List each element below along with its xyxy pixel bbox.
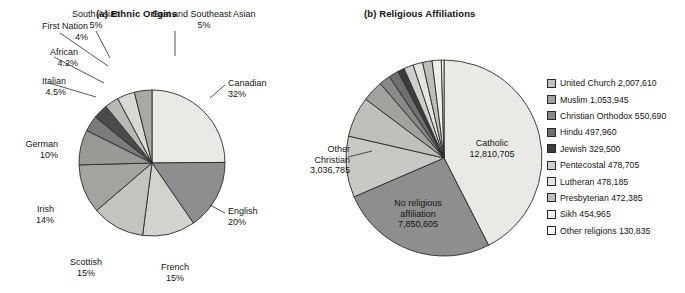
legend-item-christian: Christian Orthodox 550,690	[547, 108, 685, 124]
legend-item-label: Jewish 329,500	[560, 144, 620, 154]
legend-item-sikh: Sikh 454,965	[547, 206, 685, 222]
chart-b-legend: United Church 2,007,610Muslim 1,053,945C…	[547, 75, 685, 239]
chart-b-label-no-religious-affiliation: No religious affiliation 7,850,605	[370, 198, 466, 230]
legend-item-label: Muslim 1,053,945	[560, 95, 629, 105]
legend-item-other: Other religions 130,835	[547, 223, 685, 239]
legend-item-pentecostal: Pentecostal 478,705	[547, 157, 685, 173]
legend-swatch-icon	[547, 193, 556, 202]
legend-item-hindu: Hindu 497,960	[547, 124, 685, 140]
legend-item-presbyterian: Presbyterian 472,385	[547, 190, 685, 206]
legend-swatch-icon	[547, 210, 556, 219]
legend-item-lutheran: Lutheran 478,185	[547, 173, 685, 189]
legend-item-label: Christian Orthodox 550,690	[560, 111, 666, 121]
legend-swatch-icon	[547, 111, 556, 120]
legend-swatch-icon	[547, 144, 556, 153]
legend-item-label: Presbyterian 472,385	[560, 193, 643, 203]
legend-swatch-icon	[547, 128, 556, 137]
legend-item-label: Lutheran 478,185	[560, 177, 628, 187]
legend-swatch-icon	[547, 79, 556, 88]
chart-b-label-other-christian: Other Christian 3,036,785	[278, 144, 350, 176]
legend-item-label: Other religions 130,835	[560, 226, 650, 236]
legend-swatch-icon	[547, 226, 556, 235]
legend-item-label: Sikh 454,965	[560, 209, 611, 219]
legend-swatch-icon	[547, 177, 556, 186]
legend-swatch-icon	[547, 95, 556, 104]
chart-b-label-catholic: Catholic 12,810,705	[440, 138, 544, 159]
legend-item-label: Pentecostal 478,705	[560, 160, 639, 170]
legend-item-label: United Church 2,007,610	[560, 78, 657, 88]
legend-item-muslim: Muslim 1,053,945	[547, 91, 685, 107]
legend-item-label: Hindu 497,960	[560, 127, 617, 137]
legend-item-jewish: Jewish 329,500	[547, 141, 685, 157]
legend-swatch-icon	[547, 161, 556, 170]
legend-item-united: United Church 2,007,610	[547, 75, 685, 91]
two-pie-chart-figure: (a) Ethnic Origins Italian 4.5% African …	[0, 0, 685, 293]
